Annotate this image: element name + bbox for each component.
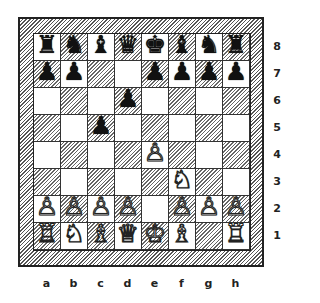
black-pawn-icon: ♟ bbox=[90, 113, 112, 138]
rank-label-1: 1 bbox=[272, 229, 282, 242]
white-bishop-icon: ♗ bbox=[171, 221, 193, 246]
square-h1: ♖ bbox=[223, 223, 250, 250]
square-g5 bbox=[196, 115, 223, 142]
square-f1: ♗ bbox=[169, 223, 196, 250]
file-label-a: a bbox=[33, 277, 60, 290]
square-a7: ♟ bbox=[34, 61, 61, 88]
white-rook-icon: ♖ bbox=[225, 221, 247, 246]
white-bishop-icon: ♗ bbox=[90, 221, 112, 246]
square-b7: ♟ bbox=[61, 61, 88, 88]
white-pawn-icon: ♙ bbox=[90, 194, 112, 219]
black-bishop-icon: ♝ bbox=[90, 32, 112, 57]
black-pawn-icon: ♟ bbox=[144, 59, 166, 84]
white-pawn-icon: ♙ bbox=[171, 194, 193, 219]
white-knight-icon: ♘ bbox=[63, 221, 85, 246]
square-g7: ♟ bbox=[196, 61, 223, 88]
file-label-d: d bbox=[114, 277, 141, 290]
square-d4 bbox=[115, 142, 142, 169]
square-d6: ♟ bbox=[115, 88, 142, 115]
rank-label-8: 8 bbox=[272, 40, 282, 53]
square-f7: ♟ bbox=[169, 61, 196, 88]
white-rook-icon: ♖ bbox=[36, 221, 58, 246]
square-g1 bbox=[196, 223, 223, 250]
rank-label-4: 4 bbox=[272, 148, 282, 161]
black-pawn-icon: ♟ bbox=[36, 59, 58, 84]
white-pawn-icon: ♙ bbox=[36, 194, 58, 219]
square-e3 bbox=[142, 169, 169, 196]
white-knight-icon: ♘ bbox=[171, 167, 193, 192]
white-pawn-icon: ♙ bbox=[198, 194, 220, 219]
chess-board: ♜♞♝♛♚♝♞♜♟♟♟♟♟♟♟♟♙♘♙♙♙♙♙♙♙♖♘♗♕♔♗♖ bbox=[33, 33, 251, 251]
black-rook-icon: ♜ bbox=[36, 32, 58, 57]
file-label-f: f bbox=[168, 277, 195, 290]
square-e1: ♔ bbox=[142, 223, 169, 250]
rank-label-3: 3 bbox=[272, 175, 282, 188]
file-label-g: g bbox=[195, 277, 222, 290]
square-a6 bbox=[34, 88, 61, 115]
square-b5 bbox=[61, 115, 88, 142]
rank-label-5: 5 bbox=[272, 121, 282, 134]
square-g4 bbox=[196, 142, 223, 169]
black-pawn-icon: ♟ bbox=[63, 59, 85, 84]
white-king-icon: ♔ bbox=[144, 221, 166, 246]
square-h7: ♟ bbox=[223, 61, 250, 88]
square-c8: ♝ bbox=[88, 34, 115, 61]
black-knight-icon: ♞ bbox=[198, 32, 220, 57]
black-rook-icon: ♜ bbox=[225, 32, 247, 57]
square-e4: ♙ bbox=[142, 142, 169, 169]
black-pawn-icon: ♟ bbox=[225, 59, 247, 84]
black-queen-icon: ♛ bbox=[117, 32, 139, 57]
square-c4 bbox=[88, 142, 115, 169]
square-c1: ♗ bbox=[88, 223, 115, 250]
black-pawn-icon: ♟ bbox=[171, 59, 193, 84]
square-f5 bbox=[169, 115, 196, 142]
square-e6 bbox=[142, 88, 169, 115]
square-b4 bbox=[61, 142, 88, 169]
square-g6 bbox=[196, 88, 223, 115]
black-knight-icon: ♞ bbox=[63, 32, 85, 57]
square-c7 bbox=[88, 61, 115, 88]
white-queen-icon: ♕ bbox=[117, 221, 139, 246]
square-g2: ♙ bbox=[196, 196, 223, 223]
white-pawn-icon: ♙ bbox=[63, 194, 85, 219]
square-b1: ♘ bbox=[61, 223, 88, 250]
white-pawn-icon: ♙ bbox=[225, 194, 247, 219]
square-h4 bbox=[223, 142, 250, 169]
file-label-c: c bbox=[87, 277, 114, 290]
square-d5 bbox=[115, 115, 142, 142]
black-bishop-icon: ♝ bbox=[171, 32, 193, 57]
file-label-h: h bbox=[222, 277, 249, 290]
square-h5 bbox=[223, 115, 250, 142]
white-pawn-icon: ♙ bbox=[117, 194, 139, 219]
square-d1: ♕ bbox=[115, 223, 142, 250]
square-h6 bbox=[223, 88, 250, 115]
rank-label-2: 2 bbox=[272, 202, 282, 215]
square-a1: ♖ bbox=[34, 223, 61, 250]
white-pawn-icon: ♙ bbox=[144, 140, 166, 165]
square-c5: ♟ bbox=[88, 115, 115, 142]
square-a5 bbox=[34, 115, 61, 142]
file-label-e: e bbox=[141, 277, 168, 290]
file-label-b: b bbox=[60, 277, 87, 290]
square-f6 bbox=[169, 88, 196, 115]
square-d8: ♛ bbox=[115, 34, 142, 61]
black-pawn-icon: ♟ bbox=[117, 86, 139, 111]
black-king-icon: ♚ bbox=[144, 32, 166, 57]
rank-label-6: 6 bbox=[272, 94, 282, 107]
square-b6 bbox=[61, 88, 88, 115]
black-pawn-icon: ♟ bbox=[198, 59, 220, 84]
square-e7: ♟ bbox=[142, 61, 169, 88]
square-a4 bbox=[34, 142, 61, 169]
rank-label-7: 7 bbox=[272, 67, 282, 80]
